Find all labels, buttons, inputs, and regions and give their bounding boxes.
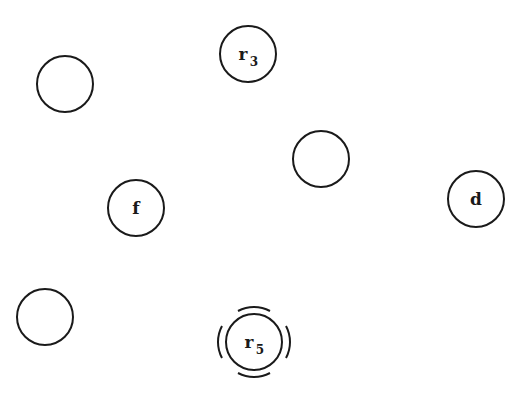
node-empty-center[interactable]: [293, 131, 349, 187]
highlight-arc-top: [238, 307, 270, 311]
node-r5-subscript: 5: [256, 343, 264, 357]
node-r3-label: r: [239, 44, 249, 64]
node-d-label: d: [470, 189, 482, 209]
node-d[interactable]: d: [448, 171, 504, 227]
node-r5-highlighted[interactable]: r 5: [218, 307, 290, 377]
highlight-arc-right: [286, 326, 290, 358]
diagram-canvas: r 3 f d r 5: [0, 0, 530, 402]
node-empty-bottom-left[interactable]: [17, 289, 73, 345]
node-r5-label: r: [245, 332, 255, 352]
highlight-arc-left: [218, 326, 222, 358]
node-empty-top-left[interactable]: [37, 56, 93, 112]
node-r3[interactable]: r 3: [220, 26, 276, 82]
node-r3-subscript: 3: [250, 55, 258, 69]
highlight-arc-bottom: [238, 373, 270, 377]
node-f[interactable]: f: [108, 180, 164, 236]
